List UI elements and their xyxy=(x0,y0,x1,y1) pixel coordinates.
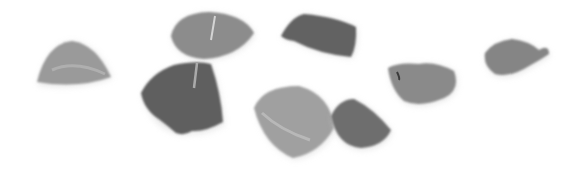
petal-far-right xyxy=(485,39,550,77)
petal-far-left xyxy=(37,41,112,86)
petal-right-middle xyxy=(388,63,457,106)
petal-dark-center-left xyxy=(141,62,224,135)
petal-top-center xyxy=(171,12,255,60)
petal-bottom-center-dark xyxy=(331,99,392,150)
petal-bottom-center-light xyxy=(254,86,336,160)
petals-image xyxy=(0,0,587,178)
petal-top-right-dark xyxy=(281,14,357,58)
petals-illustration xyxy=(0,0,587,178)
